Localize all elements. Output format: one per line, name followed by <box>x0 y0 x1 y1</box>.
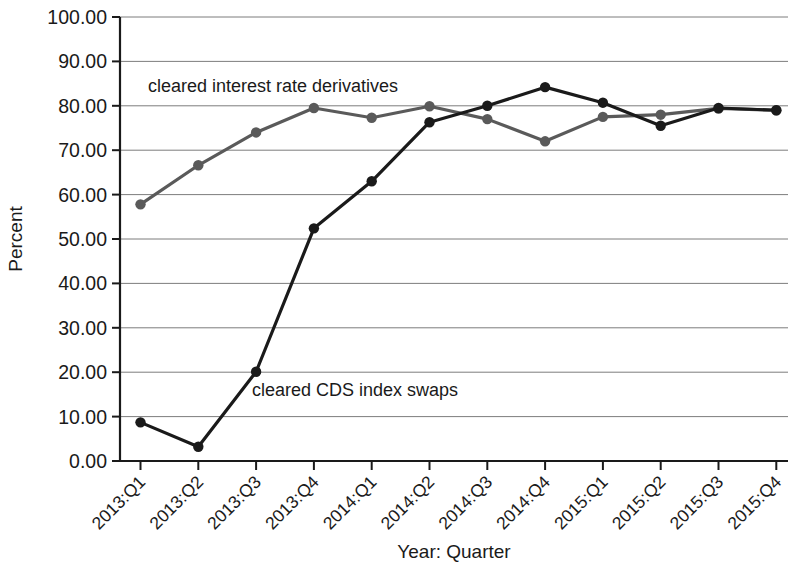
data-point <box>424 117 434 127</box>
x-tick-label: 2015:Q3 <box>666 472 728 534</box>
y-tick-label: 70.00 <box>58 139 107 161</box>
series-line <box>141 87 777 447</box>
x-tick-label: 2014:Q1 <box>319 472 381 534</box>
y-tick-label: 30.00 <box>58 317 107 339</box>
x-tick-label: 2014:Q3 <box>435 472 497 534</box>
series-annotation: cleared CDS index swaps <box>252 380 458 400</box>
y-tick-label: 80.00 <box>58 95 107 117</box>
y-tick-label: 100.00 <box>47 6 107 28</box>
x-tick-label: 2013:Q1 <box>88 472 150 534</box>
y-axis-tick-labels: 0.0010.0020.0030.0040.0050.0060.0070.008… <box>47 6 107 472</box>
data-point <box>193 160 203 170</box>
data-point <box>251 367 261 377</box>
data-point <box>309 103 319 113</box>
data-point <box>713 103 723 113</box>
y-axis-ticks <box>112 17 120 461</box>
data-point <box>656 121 666 131</box>
x-tick-label: 2015:Q4 <box>724 471 786 533</box>
data-point <box>135 199 145 209</box>
data-point <box>309 223 319 233</box>
x-axis-ticks <box>141 461 777 470</box>
y-tick-label: 0.00 <box>69 450 107 472</box>
x-tick-label: 2014:Q4 <box>492 471 554 533</box>
data-point <box>424 101 434 111</box>
data-point <box>135 417 145 427</box>
y-tick-label: 20.00 <box>58 361 107 383</box>
x-tick-label: 2015:Q1 <box>550 472 612 534</box>
x-axis-tick-labels: 2013:Q12013:Q22013:Q32013:Q42014:Q12014:… <box>88 471 786 533</box>
x-tick-label: 2013:Q4 <box>261 471 323 533</box>
x-tick-label: 2013:Q3 <box>203 472 265 534</box>
line-chart: 0.0010.0020.0030.0040.0050.0060.0070.008… <box>0 0 788 579</box>
y-tick-label: 90.00 <box>58 50 107 72</box>
y-tick-label: 50.00 <box>58 228 107 250</box>
data-point <box>540 136 550 146</box>
data-point <box>540 82 550 92</box>
y-tick-label: 40.00 <box>58 272 107 294</box>
data-point <box>251 127 261 137</box>
y-tick-label: 10.00 <box>58 406 107 428</box>
y-tick-label: 60.00 <box>58 184 107 206</box>
series-annotation: cleared interest rate derivatives <box>148 76 398 96</box>
data-point <box>482 114 492 124</box>
series-group <box>135 82 781 452</box>
data-point <box>367 113 377 123</box>
x-tick-label: 2014:Q2 <box>377 472 439 534</box>
data-point <box>656 109 666 119</box>
chart-container: 0.0010.0020.0030.0040.0050.0060.0070.008… <box>0 0 788 579</box>
x-tick-label: 2013:Q2 <box>146 472 208 534</box>
x-tick-label: 2015:Q2 <box>608 472 670 534</box>
y-axis-title: Percent <box>5 206 26 272</box>
series-2 <box>135 82 781 452</box>
x-axis-title: Year: Quarter <box>397 541 511 562</box>
data-point <box>193 442 203 452</box>
series-annotations: cleared interest rate derivativescleared… <box>148 76 458 400</box>
data-point <box>367 176 377 186</box>
data-point <box>598 97 608 107</box>
data-point <box>482 101 492 111</box>
data-point <box>598 112 608 122</box>
data-point <box>771 105 781 115</box>
